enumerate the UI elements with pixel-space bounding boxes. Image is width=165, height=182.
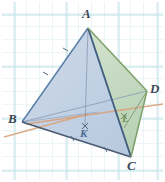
point-label-L: L [122,113,129,124]
tetrahedron-figure [0,0,165,182]
vertex-label-C: C [127,159,136,172]
point-label-K: K [80,128,87,139]
vertex-label-D: D [150,82,159,95]
vertex-label-B: B [8,112,17,125]
vertex-label-A: A [82,7,91,20]
figure-canvas: A B C D K L [0,0,165,182]
